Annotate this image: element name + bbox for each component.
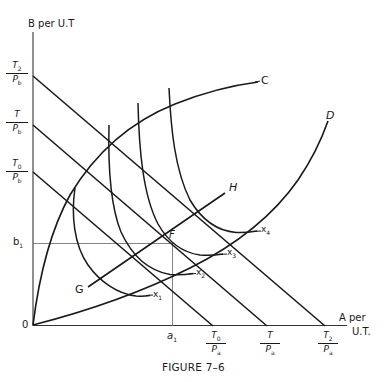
budget-line-t0: [33, 172, 213, 326]
fraction-numerator: T2: [318, 331, 338, 344]
x2-leader: [189, 274, 196, 275]
y-intercept-t0-pb: T0 Pb: [6, 159, 28, 184]
y-intercept-t-pb: T Pb: [6, 110, 28, 135]
origin-label: 0: [22, 320, 28, 330]
indifference-curve-x3: [138, 103, 223, 255]
x-intercept-t2-pa: T2 Pa: [318, 331, 338, 356]
fraction-numerator: T2: [6, 61, 28, 74]
fraction-denominator: Pb: [6, 172, 28, 184]
fraction-denominator: Pb: [6, 123, 28, 135]
y-intercept-t2-pb: T2 Pb: [6, 61, 28, 86]
x3-leader: [219, 254, 227, 255]
b1-label: b1: [13, 237, 23, 249]
a1-sub: 1: [173, 336, 177, 343]
x-axis-label-line1: A per: [339, 313, 366, 323]
indifference-curve-x1: [73, 188, 150, 296]
curve-G-label: G: [75, 284, 84, 295]
x1-leader: [146, 295, 153, 296]
a1-label: a1: [167, 331, 177, 343]
fraction-denominator: Pb: [6, 74, 28, 86]
fraction-denominator: Pa: [206, 344, 226, 356]
fraction-denominator: Pa: [260, 344, 280, 356]
b1-sub: 1: [19, 242, 23, 249]
curve-C-label: C: [261, 75, 269, 86]
x3-label: x3: [227, 248, 236, 259]
x1-label: x1: [153, 290, 162, 301]
curve-D-label: D: [326, 110, 334, 121]
fraction-numerator: T: [6, 110, 28, 123]
x-intercept-t-pa: T Pa: [260, 331, 280, 356]
x4-label: x4: [261, 225, 270, 236]
fraction-denominator: Pa: [318, 344, 338, 356]
indifference-diagram: [0, 0, 387, 382]
x-intercept-t0-pa: T0 Pa: [206, 331, 226, 356]
y-axis-label: B per U.T: [28, 19, 74, 29]
x-axis-label-line2: U.T.: [352, 327, 371, 337]
x4-leader: [253, 231, 261, 232]
fraction-numerator: T: [260, 331, 280, 344]
indifference-curve-x4: [169, 88, 257, 233]
fraction-numerator: T0: [206, 331, 226, 344]
point-F-label: F: [169, 230, 175, 240]
curve-H-label: H: [229, 182, 237, 193]
x2-label: x2: [196, 268, 205, 279]
fraction-numerator: T0: [6, 159, 28, 172]
C-leader: [255, 81, 260, 82]
figure-caption: FIGURE 7–6: [162, 361, 225, 373]
